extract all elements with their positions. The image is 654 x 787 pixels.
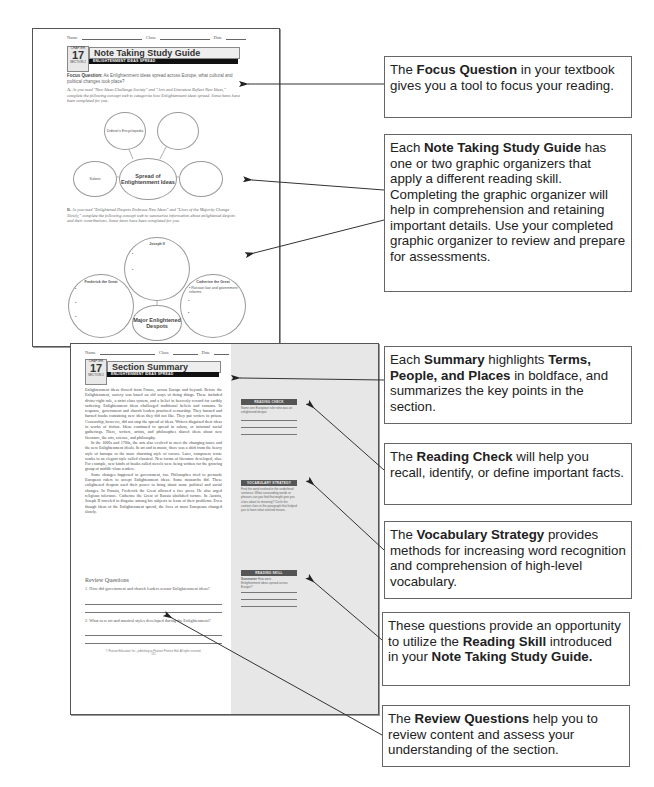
pointer-arrows (0, 0, 654, 787)
